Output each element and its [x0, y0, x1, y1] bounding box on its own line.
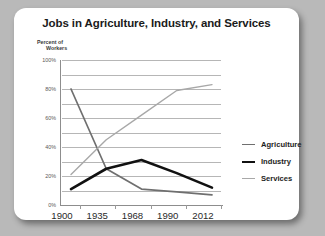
chart-card: Jobs in Agriculture, Industry, and Servi… [14, 8, 299, 220]
x-axis-tick-mark [221, 205, 222, 209]
legend-swatch-services [242, 178, 255, 179]
chart-legend: AgricultureIndustryServices [242, 136, 322, 187]
legend-item-industry[interactable]: Industry [242, 153, 322, 170]
y-axis-label: Percent of Workers [37, 39, 97, 51]
x-axis-tick-mark [115, 205, 116, 209]
x-axis-tick-label: 1990 [148, 210, 188, 221]
y-axis-label-line1: Percent of [37, 39, 63, 45]
x-axis-tick-label: 1900 [42, 210, 82, 221]
y-axis-tick-label: 0% [26, 202, 56, 208]
legend-label: Agriculture [261, 140, 302, 149]
y-axis-tick-label: 100% [26, 57, 56, 63]
y-axis-label-line2: Workers [37, 45, 97, 51]
x-axis-tick-label: 2012 [183, 210, 223, 221]
chart-plot-area [62, 60, 221, 205]
legend-label: Services [261, 174, 292, 183]
x-axis-tick-mark [151, 205, 152, 209]
legend-item-agriculture[interactable]: Agriculture [242, 136, 322, 153]
legend-label: Industry [261, 157, 291, 166]
y-axis-tick-label: 40% [26, 144, 56, 150]
y-axis-line [60, 60, 61, 206]
y-axis-tick-label: 20% [26, 173, 56, 179]
x-axis-tick-label: 1935 [77, 210, 117, 221]
chart-title: Jobs in Agriculture, Industry, and Servi… [14, 17, 299, 29]
legend-swatch-agriculture [242, 144, 255, 145]
x-axis-tick-mark [186, 205, 187, 209]
x-axis-tick-label: 1968 [113, 210, 153, 221]
legend-swatch-industry [242, 161, 255, 163]
y-axis-tick-label: 80% [26, 86, 56, 92]
x-axis-tick-mark [80, 205, 81, 209]
legend-item-services[interactable]: Services [242, 170, 322, 187]
y-axis-tick-label: 60% [26, 115, 56, 121]
series-line-industry [71, 160, 212, 189]
x-axis-line [60, 205, 223, 206]
